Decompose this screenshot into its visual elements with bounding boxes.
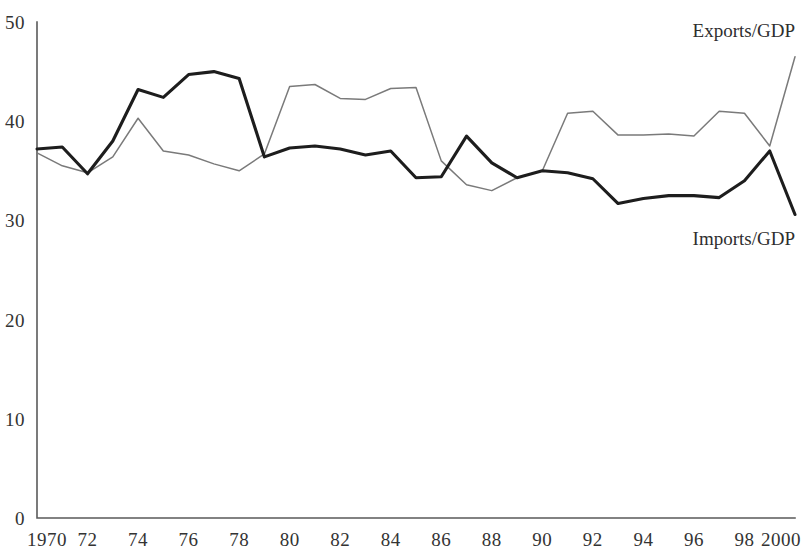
y-tick-label: 30 xyxy=(5,210,25,231)
x-tick-label: 98 xyxy=(734,529,754,550)
x-tick-label: 92 xyxy=(583,529,603,550)
x-tick-label: 1970 xyxy=(27,529,67,550)
x-tick-label: 88 xyxy=(482,529,502,550)
x-tick-label: 72 xyxy=(78,529,98,550)
x-tick-label: 96 xyxy=(684,529,704,550)
x-tick-label: 82 xyxy=(330,529,350,550)
y-tick-label: 20 xyxy=(5,310,25,331)
x-tick-label: 2000 xyxy=(761,529,801,550)
series-line-exports xyxy=(37,57,795,191)
y-tick-label: 40 xyxy=(5,111,25,132)
x-axis-tick-labels: 197072747678808284868890929496982000 xyxy=(27,529,801,550)
y-tick-label: 0 xyxy=(15,508,25,529)
x-tick-label: 84 xyxy=(381,529,401,550)
x-tick-label: 94 xyxy=(633,529,653,550)
x-tick-label: 86 xyxy=(431,529,451,550)
series-label-exports: Exports/GDP xyxy=(693,20,795,41)
x-tick-label: 74 xyxy=(128,529,148,550)
y-tick-label: 10 xyxy=(5,409,25,430)
y-tick-label: 50 xyxy=(5,12,25,33)
series-line-imports xyxy=(37,72,795,215)
series-label-imports: Imports/GDP xyxy=(693,228,795,249)
y-axis-tick-labels: 01020304050 xyxy=(5,12,25,529)
x-tick-label: 78 xyxy=(229,529,249,550)
chart-figure: 01020304050 1970727476788082848688909294… xyxy=(0,0,805,557)
axis-lines xyxy=(37,22,795,518)
x-tick-label: 76 xyxy=(179,529,199,550)
line-chart-svg: 01020304050 1970727476788082848688909294… xyxy=(0,0,805,557)
x-tick-label: 80 xyxy=(280,529,300,550)
x-tick-label: 90 xyxy=(532,529,552,550)
